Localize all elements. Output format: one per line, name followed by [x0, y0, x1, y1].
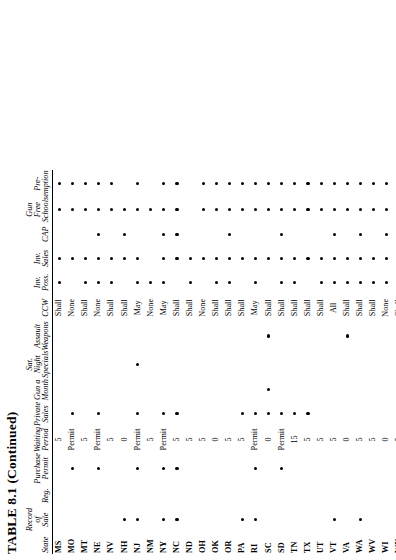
cell-permit	[301, 453, 314, 484]
column-header-private[interactable]: Private Sales	[26, 402, 53, 426]
column-header-assault[interactable]: Assault Weapons	[26, 321, 53, 350]
cell-preempt	[184, 170, 197, 196]
filled-dot-marker	[58, 281, 61, 284]
table-row[interactable]: NV5Shall	[105, 170, 118, 554]
cell-record	[184, 508, 197, 532]
table-row[interactable]: TX5Shall	[301, 170, 314, 554]
table-row[interactable]: WI0None	[380, 170, 393, 554]
column-header-ccw[interactable]: CCW	[26, 294, 53, 321]
table-row[interactable]: UT5Shall	[314, 170, 327, 554]
filled-dot-marker	[228, 257, 231, 260]
filled-dot-marker	[215, 281, 218, 284]
filled-dot-marker	[333, 233, 336, 236]
table-row[interactable]: TN15Shall	[288, 170, 301, 554]
table-row[interactable]: ND5Shall	[184, 170, 197, 554]
column-header-state[interactable]: State	[26, 532, 53, 554]
cell-waiting: 5	[223, 426, 236, 453]
cell-invposs	[66, 270, 79, 294]
cell-assault	[144, 321, 157, 350]
table-row[interactable]: OK0Shall	[210, 170, 223, 554]
cell-cap	[53, 222, 66, 246]
table-row[interactable]: NJPermitMay	[131, 170, 144, 554]
table-row[interactable]: WV5Shall	[367, 170, 380, 554]
filled-dot-marker	[228, 233, 231, 236]
cell-reg	[236, 484, 249, 508]
column-header-permit[interactable]: Purchase Permit	[26, 453, 53, 484]
filled-dot-marker	[228, 208, 231, 211]
table-row[interactable]: SDPermitShall	[275, 170, 288, 554]
table-row[interactable]: VA0Shall	[341, 170, 354, 554]
cell-gunfree	[197, 197, 210, 222]
column-header-gunfree[interactable]: Gun Free Schools	[26, 197, 53, 222]
table-row[interactable]: NEPermitNone	[92, 170, 105, 554]
cell-ccw: May	[131, 294, 144, 321]
table-row[interactable]: NYPermitMay	[157, 170, 170, 554]
cell-reg	[197, 484, 210, 508]
cell-preempt	[328, 170, 341, 196]
table-row[interactable]: MS5Shall	[53, 170, 66, 554]
table-row[interactable]: NC5Shall	[170, 170, 183, 554]
cell-private	[53, 402, 66, 426]
cell-preempt	[380, 170, 393, 196]
filled-dot-marker	[359, 182, 362, 185]
cell-preempt	[197, 170, 210, 196]
filled-dot-marker	[359, 208, 362, 211]
cell-waiting: 5	[53, 426, 66, 453]
cell-satnight	[210, 351, 223, 378]
cell-gunmonth	[223, 378, 236, 402]
table-row[interactable]: VT5All	[328, 170, 341, 554]
filled-dot-marker	[189, 281, 192, 284]
cell-reg	[184, 484, 197, 508]
column-header-gunmonth[interactable]: Gun a Month	[26, 378, 53, 402]
table-row[interactable]: NH0Shall	[118, 170, 131, 554]
table-row[interactable]: MOPermitNone	[66, 170, 79, 554]
cell-gunfree	[249, 197, 262, 222]
filled-dot-marker	[97, 233, 100, 236]
cell-assault	[301, 321, 314, 350]
filled-dot-marker	[71, 182, 74, 185]
cell-assault	[288, 321, 301, 350]
cell-invposs	[380, 270, 393, 294]
cell-cap	[341, 222, 354, 246]
cell-record	[118, 508, 131, 532]
column-header-waiting[interactable]: Waiting Period	[26, 426, 53, 453]
column-header-invposs[interactable]: Inv. Poss.	[26, 270, 53, 294]
column-header-invsales[interactable]: Inv. Sales	[26, 246, 53, 270]
filled-dot-marker	[385, 182, 388, 185]
cell-ccw: None	[144, 294, 157, 321]
table-row[interactable]: RIPermitMay	[249, 170, 262, 554]
cell-gunfree	[301, 197, 314, 222]
cell-satnight	[105, 351, 118, 378]
cell-preempt	[131, 170, 144, 196]
cell-waiting: 0	[210, 426, 223, 453]
cell-satnight	[197, 351, 210, 378]
filled-dot-marker	[175, 182, 178, 185]
state-label: NJ	[131, 532, 144, 554]
cell-invposs	[223, 270, 236, 294]
column-header-preempt[interactable]: Pre- emption	[26, 170, 53, 196]
cell-ccw: May	[249, 294, 262, 321]
table-row[interactable]: WA5Shall	[354, 170, 367, 554]
cell-waiting: 5	[197, 426, 210, 453]
table-row[interactable]: NM5None	[144, 170, 157, 554]
cell-invsales	[354, 246, 367, 270]
cell-gunmonth	[210, 378, 223, 402]
table-row[interactable]: OR5Shall	[223, 170, 236, 554]
column-header-record[interactable]: Record of Sale	[26, 508, 53, 532]
table-row[interactable]: OH5None	[197, 170, 210, 554]
cell-invsales	[118, 246, 131, 270]
filled-dot-marker	[254, 257, 257, 260]
column-header-reg[interactable]: Reg.	[26, 484, 53, 508]
table-row[interactable]: SC0Shall	[262, 170, 275, 554]
table-row[interactable]: PA5Shall	[236, 170, 249, 554]
table-row[interactable]: MT5Shall	[79, 170, 92, 554]
column-header-cap[interactable]: CAP	[26, 222, 53, 246]
cell-satnight	[275, 351, 288, 378]
column-header-satnight[interactable]: Sat. Night Specials	[26, 351, 53, 378]
filled-dot-marker	[346, 281, 349, 284]
cell-gunfree	[131, 197, 144, 222]
cell-waiting: 5	[184, 426, 197, 453]
cell-gunmonth	[275, 378, 288, 402]
cell-permit	[197, 453, 210, 484]
filled-dot-marker	[162, 412, 165, 415]
